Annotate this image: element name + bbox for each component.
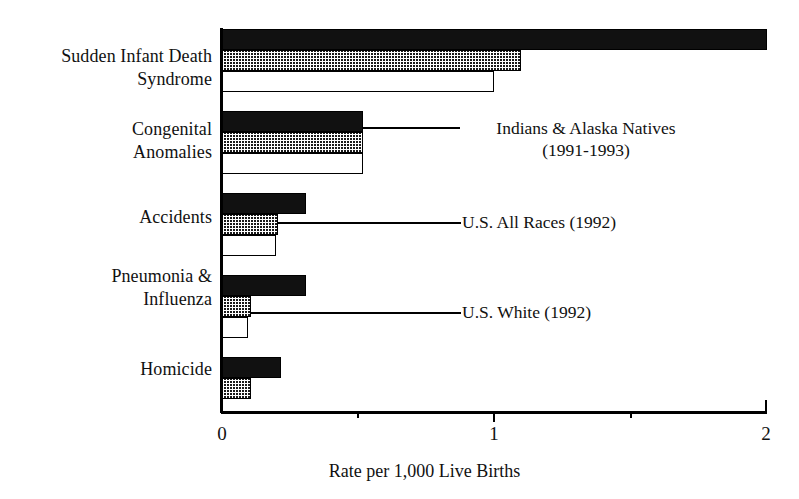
leader-line-us-all-races bbox=[278, 222, 461, 224]
bar-congenital-anomalies-us-all-races bbox=[221, 132, 363, 153]
bar-homicide-indians-alaska-natives bbox=[221, 357, 281, 378]
bar-homicide-us-all-races bbox=[221, 378, 251, 399]
annotation-us-all-races: U.S. All Races (1992) bbox=[462, 211, 722, 233]
category-label-accidents: Accidents bbox=[12, 206, 212, 229]
x-tick-2 bbox=[765, 400, 767, 413]
leader-line-us-white bbox=[250, 312, 461, 314]
bar-congenital-anomalies-us-white bbox=[221, 153, 363, 174]
x-tick-label-0: 0 bbox=[217, 423, 227, 445]
category-label-homicide: Homicide bbox=[12, 358, 212, 381]
category-label-pneumonia-influenza: Pneumonia & Influenza bbox=[12, 265, 212, 311]
x-tick-1 bbox=[493, 411, 495, 422]
bar-pneumonia-influenza-us-white bbox=[221, 317, 248, 338]
bar-accidents-us-all-races bbox=[221, 214, 278, 235]
x-axis-title: Rate per 1,000 Live Births bbox=[0, 461, 799, 482]
bar-accidents-indians-alaska-natives bbox=[221, 193, 306, 214]
annotation-us-white: U.S. White (1992) bbox=[462, 301, 722, 323]
bar-sids-us-white bbox=[221, 71, 494, 92]
category-label-sudden-infant-death-syndrome: Sudden Infant Death Syndrome bbox=[12, 45, 212, 91]
bar-chart: Sudden Infant Death Syndrome Congenital … bbox=[0, 0, 799, 499]
bar-accidents-us-white bbox=[221, 235, 276, 256]
x-tick-label-1: 1 bbox=[489, 423, 499, 445]
y-axis-line bbox=[220, 28, 223, 413]
bar-congenital-anomalies-indians-alaska-natives bbox=[221, 111, 363, 132]
leader-line-indians-alaska-natives bbox=[362, 127, 460, 129]
bar-sids-indians-alaska-natives bbox=[221, 29, 767, 50]
x-tick-0 bbox=[221, 400, 223, 413]
x-tick-1-5 bbox=[630, 411, 632, 418]
bar-pneumonia-influenza-indians-alaska-natives bbox=[221, 275, 306, 296]
annotation-indians-alaska-natives: Indians & Alaska Natives (1991-1993) bbox=[461, 117, 711, 161]
bar-pneumonia-influenza-us-all-races bbox=[221, 296, 251, 317]
x-tick-label-2: 2 bbox=[761, 423, 771, 445]
x-tick-0-5 bbox=[357, 411, 359, 418]
category-label-congenital-anomalies: Congenital Anomalies bbox=[12, 118, 212, 164]
bar-sids-us-all-races bbox=[221, 50, 521, 71]
